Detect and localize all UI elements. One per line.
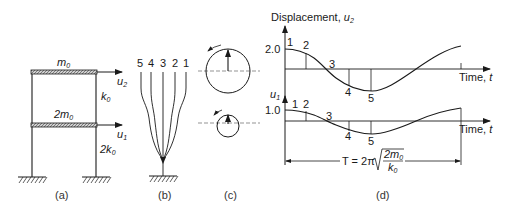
small-rotation-arrow-icon (214, 110, 222, 115)
bottom-mass-label: 2m0 (53, 108, 73, 121)
top-stiffness-label: k0 (101, 90, 111, 103)
caption-d: (d) (376, 189, 389, 201)
left-ground-support-icon (18, 177, 47, 183)
period-formula: T = 2π 2m0 k0 (342, 148, 404, 174)
top-floor-slab (31, 70, 97, 74)
u1-axis-label: u1 (270, 88, 280, 101)
mode-label-3: 3 (160, 57, 166, 69)
u2-label: u2 (117, 75, 127, 88)
bottom-floor-slab (31, 123, 97, 127)
svg-text:T = 2π: T = 2π (342, 155, 375, 167)
top-mass-label: m0 (57, 56, 70, 69)
mode-label-1: 1 (183, 57, 189, 69)
shape-1 (163, 72, 186, 160)
top-point-5: 5 (368, 92, 374, 104)
panel-c-phasors: (c) (198, 45, 260, 201)
top-time-label: Time, t (459, 71, 493, 83)
bottom-stiffness-label: 2k0 (99, 143, 116, 156)
bottom-point-4: 4 (345, 130, 351, 142)
y-axis-title: Displacement, u2 (271, 11, 354, 24)
bottom-time-label: Time, t (459, 123, 493, 135)
top-point-4: 4 (345, 86, 351, 98)
mode-label-4: 4 (148, 57, 154, 69)
bottom-peak-label: 1.0 (265, 104, 280, 116)
svg-text:k0: k0 (388, 161, 398, 174)
mode-label-2: 2 (172, 57, 178, 69)
mode-label-5: 5 (137, 57, 143, 69)
caption-a: (a) (55, 189, 68, 201)
top-peak-label: 2.0 (265, 43, 280, 55)
panel-d-time-histories: Displacement, u2 2.0 1 2 3 4 5 Time, t u… (265, 11, 493, 201)
svg-text:2m0: 2m0 (383, 148, 403, 161)
bottom-point-3: 3 (326, 110, 332, 122)
top-point-1: 1 (287, 36, 293, 48)
figure-canvas: m0 u2 k0 2m0 u1 2k0 (a) 5 4 3 2 1 (b) (0, 0, 509, 214)
top-point-2: 2 (303, 39, 309, 51)
convergence-blob (160, 157, 166, 164)
bottom-point-1: 1 (292, 98, 298, 110)
bottom-point-5: 5 (368, 135, 374, 147)
big-rotation-arrow-icon (208, 45, 221, 51)
shape-2 (163, 72, 175, 160)
top-u2-curve (285, 46, 461, 91)
shape-4 (151, 72, 163, 160)
u1-label: u1 (117, 128, 127, 141)
caption-c: (c) (224, 189, 237, 201)
bottom-point-2: 2 (303, 98, 309, 110)
top-point-3: 3 (329, 58, 335, 70)
base-ground-support-icon (149, 176, 178, 182)
panel-a-frame: m0 u2 k0 2m0 u1 2k0 (a) (18, 56, 127, 201)
caption-b: (b) (158, 189, 171, 201)
panel-b-mode-shapes: 5 4 3 2 1 (b) (137, 57, 189, 201)
right-ground-support-icon (82, 177, 111, 183)
shape-5 (141, 72, 163, 160)
